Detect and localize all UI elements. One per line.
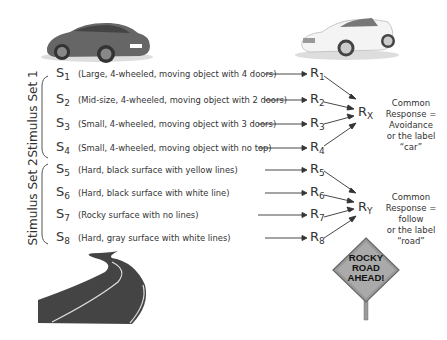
winding-road-image — [38, 251, 146, 324]
set2-arrows — [258, 168, 356, 241]
set1-arrows — [258, 72, 356, 151]
common-response-rx: RX — [358, 104, 373, 121]
response-r2: R2 — [310, 91, 325, 108]
stimulus-s5-desc: (Hard, black surface with yellow lines) — [78, 165, 238, 175]
stimulus-s6-desc: (Hard, black surface with white line) — [78, 188, 230, 198]
stimulus-s1: S1 — [56, 65, 70, 82]
stimulus-s3-desc: (Small, 4-wheeled, moving object with 3 … — [78, 119, 276, 129]
stimulus-s3: S3 — [56, 115, 70, 132]
stimulus-s7-desc: (Rocky surface with no lines) — [78, 210, 199, 220]
stimulus-s2: S2 — [56, 91, 70, 108]
response-r4: R4 — [310, 139, 325, 156]
response-r7: R7 — [310, 206, 325, 223]
stimulus-set-1-label: Stimulus Set 1 — [26, 69, 40, 159]
convertible-car-image — [295, 18, 399, 60]
response-r6: R6 — [310, 184, 325, 201]
stimulus-s4: S4 — [56, 139, 70, 156]
common-response-1-text: Common Response = Avoidance or the label… — [380, 98, 442, 153]
stimulus-s8-desc: (Hard, gray surface with white lines) — [78, 233, 231, 243]
response-r5: R5 — [310, 161, 325, 178]
response-r3: R3 — [310, 115, 325, 132]
set1-brace — [42, 76, 48, 158]
response-r8: R8 — [310, 229, 325, 246]
stimulus-s2-desc: (Mid-size, 4-wheeled, moving object with… — [78, 95, 287, 105]
stimulus-s8: S8 — [56, 229, 70, 246]
stimulus-set-2-label: Stimulus Set 2 — [26, 157, 40, 247]
stimulus-s6: S6 — [56, 184, 70, 201]
stimulus-s5: S5 — [56, 161, 70, 178]
common-response-2-text: Common Response = follow or the label “r… — [380, 192, 442, 247]
stimulus-s1-desc: (Large, 4-wheeled, moving object with 4 … — [78, 69, 276, 79]
sign-text: ROCKY ROAD AHEAD! — [345, 253, 387, 283]
stimulus-s7: S7 — [56, 206, 70, 223]
common-response-ry: RY — [358, 199, 373, 216]
stimulus-s4-desc: (Small, 4-wheeled, moving object with no… — [78, 143, 272, 153]
set2-brace — [42, 164, 48, 244]
sedan-car-image — [41, 23, 153, 63]
response-r1: R1 — [310, 65, 325, 82]
